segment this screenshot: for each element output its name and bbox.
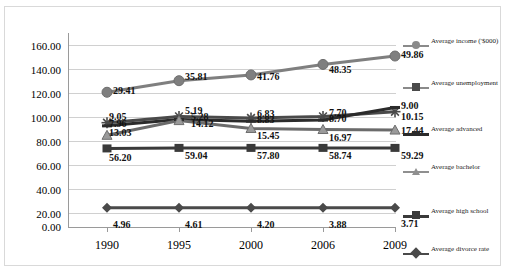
legend-label: Average advanced: [431, 125, 501, 133]
data-label: 35.81: [185, 72, 208, 82]
legend-item-advanced[interactable]: Average advanced: [403, 125, 501, 159]
data-label: 58.74: [329, 151, 352, 161]
legend-item-divorcerate[interactable]: Average divorce rate: [403, 245, 501, 274]
data-label: 13.03: [109, 128, 132, 138]
legend-item-bachelor[interactable]: Average bachelor: [403, 163, 501, 197]
legend-item-unemployment[interactable]: Average unemployment: [403, 79, 501, 113]
data-label: 4.61: [185, 220, 203, 230]
x-axis-label: 1995: [149, 239, 209, 251]
legend-label: Average high school: [431, 207, 501, 215]
data-label: 57.80: [257, 151, 280, 161]
legend-key-diamond-icon: [403, 249, 429, 259]
data-label: 4.96: [113, 220, 131, 230]
legend-label: Average divorce rate: [431, 245, 501, 253]
legend-item-income[interactable]: Average income ('$000): [403, 37, 501, 71]
data-label: 59.04: [185, 151, 208, 161]
legend-key-triangle-icon: [403, 167, 429, 177]
data-label: 14.12: [191, 119, 214, 129]
data-label: 15.45: [257, 131, 280, 141]
legend-item-highschool[interactable]: Average high school: [403, 207, 501, 241]
data-label: 8.70: [329, 114, 347, 124]
x-axis-label: 2006: [293, 239, 353, 251]
legend-key-asterisk-icon: [403, 83, 429, 93]
legend-key-dash-icon: [403, 129, 429, 139]
data-label: 3.88: [329, 220, 347, 230]
data-label: 48.35: [329, 65, 352, 75]
plot-area: 160.00 140.00 120.00 100.00 80.00 60.00 …: [5, 7, 502, 267]
legend-label: Average bachelor: [431, 163, 501, 171]
x-axis-label: 2000: [221, 239, 281, 251]
data-label: 56.20: [109, 153, 132, 163]
data-label: 4.20: [257, 220, 275, 230]
legend-label: Average unemployment: [431, 79, 501, 87]
chart-legend: Average income ('$000) Average unemploym…: [403, 29, 501, 257]
data-label: 16.97: [329, 133, 352, 143]
legend-key-circle-icon: [403, 41, 429, 51]
data-label: 29.41: [113, 86, 136, 96]
data-label: 41.76: [257, 72, 280, 82]
legend-label: Average income ('$000): [431, 37, 501, 45]
chart-container: 160.00 140.00 120.00 100.00 80.00 60.00 …: [4, 6, 501, 266]
data-label: 8.83: [257, 115, 275, 125]
x-axis-label: 1990: [77, 239, 137, 251]
legend-key-square-icon: [403, 211, 429, 221]
